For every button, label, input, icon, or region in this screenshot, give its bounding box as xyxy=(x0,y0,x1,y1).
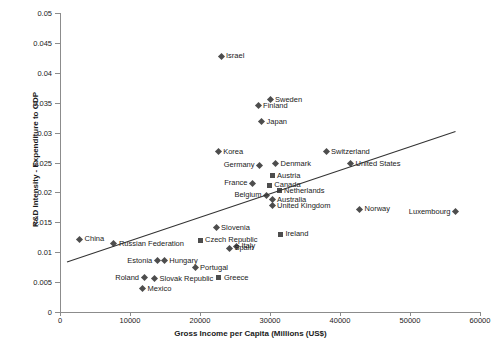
scatter-chart: 00.0050.010.0150.020.0250.030.0350.040.0… xyxy=(0,0,501,344)
y-axis-title: R&D Intensity - Expenditure to GDP xyxy=(31,40,40,280)
x-axis-title: Gross Income per Capita (Millions (US$) xyxy=(0,329,501,338)
trendline xyxy=(0,0,501,344)
